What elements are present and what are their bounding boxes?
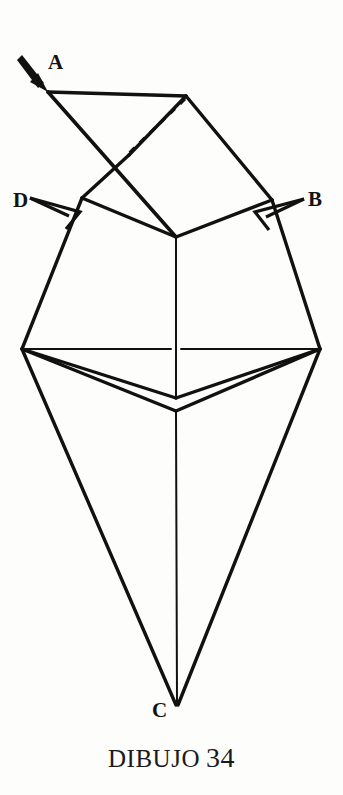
center-crease-lower <box>176 412 177 702</box>
vertex-label-d: D <box>13 190 28 211</box>
upper-flap-edge-bottom-right <box>176 200 272 237</box>
arrow-a <box>17 55 48 92</box>
body-edge-right-upper <box>272 200 320 349</box>
caption-word: DIBUJO <box>108 745 200 772</box>
vertex-label-a: A <box>48 52 63 73</box>
left-flap-edge-inner <box>82 198 176 237</box>
origami-diagram <box>0 0 343 740</box>
notch-edge-outer-right <box>176 349 320 398</box>
upper-flap-edge-top <box>48 92 186 96</box>
figure-caption: DIBUJO34 <box>0 742 343 774</box>
vertex-label-b: B <box>308 189 322 210</box>
vertex-label-c: C <box>152 700 167 721</box>
upper-flap-edge-right <box>186 96 272 200</box>
origami-figure: A B C D DIBUJO34 <box>0 0 343 795</box>
notch-edge-outer-left <box>22 349 176 398</box>
model-outline <box>22 92 320 705</box>
left-flap-edge-to-top <box>129 96 186 155</box>
caption-number: 34 <box>206 742 235 773</box>
